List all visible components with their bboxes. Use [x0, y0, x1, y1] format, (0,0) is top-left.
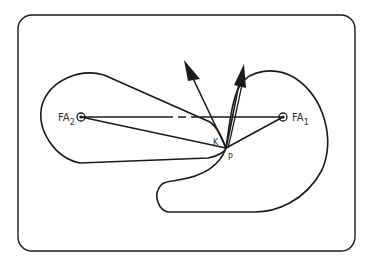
force-arrow-left-shaft — [190, 72, 226, 148]
force-arrow-right-head — [234, 64, 246, 88]
force-arrow-right-shaft — [226, 78, 240, 148]
radius-line-fa2-p — [81, 117, 226, 148]
right-lobe-shape — [157, 71, 328, 212]
label-fa1: FA1 — [292, 112, 309, 127]
label-fa2: FA2 — [58, 112, 75, 127]
cam-diagram: FA2 FA1 K P — [0, 0, 373, 264]
label-k: K — [213, 138, 219, 147]
force-arrow-right-shaft-2 — [228, 80, 243, 148]
force-arrow-left-head — [184, 60, 200, 81]
left-lobe-upper-edge — [104, 75, 226, 148]
label-p: P — [228, 153, 233, 162]
frame — [18, 15, 355, 251]
